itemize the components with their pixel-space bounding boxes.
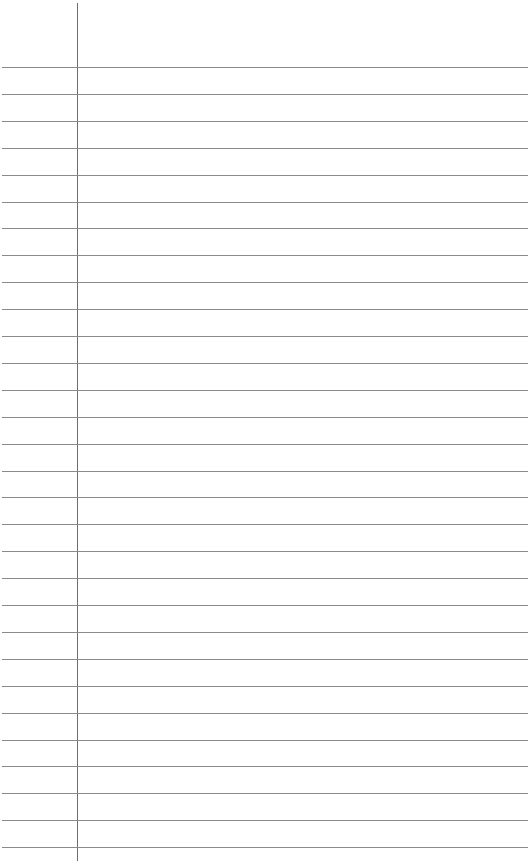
- ruled-line: [2, 820, 528, 821]
- ruled-line: [2, 766, 528, 767]
- ruled-line: [2, 740, 528, 741]
- ruled-line: [2, 336, 528, 337]
- ruled-line: [2, 686, 528, 687]
- ruled-line: [2, 255, 528, 256]
- ruled-line: [2, 713, 528, 714]
- margin-line: [77, 3, 78, 861]
- ruled-line: [2, 228, 528, 229]
- ruled-line: [2, 309, 528, 310]
- ruled-line: [2, 363, 528, 364]
- ruled-line: [2, 94, 528, 95]
- ruled-line: [2, 847, 528, 848]
- ruled-line: [2, 121, 528, 122]
- lined-paper-page: [0, 0, 531, 864]
- ruled-line: [2, 282, 528, 283]
- ruled-line: [2, 659, 528, 660]
- ruled-line: [2, 390, 528, 391]
- ruled-line: [2, 524, 528, 525]
- ruled-line: [2, 202, 528, 203]
- ruled-line: [2, 67, 528, 68]
- ruled-line: [2, 148, 528, 149]
- ruled-line: [2, 793, 528, 794]
- ruled-line: [2, 551, 528, 552]
- ruled-line: [2, 632, 528, 633]
- ruled-line: [2, 578, 528, 579]
- ruled-line: [2, 605, 528, 606]
- ruled-line: [2, 471, 528, 472]
- ruled-line: [2, 175, 528, 176]
- ruled-line: [2, 417, 528, 418]
- ruled-line: [2, 444, 528, 445]
- ruled-line: [2, 497, 528, 498]
